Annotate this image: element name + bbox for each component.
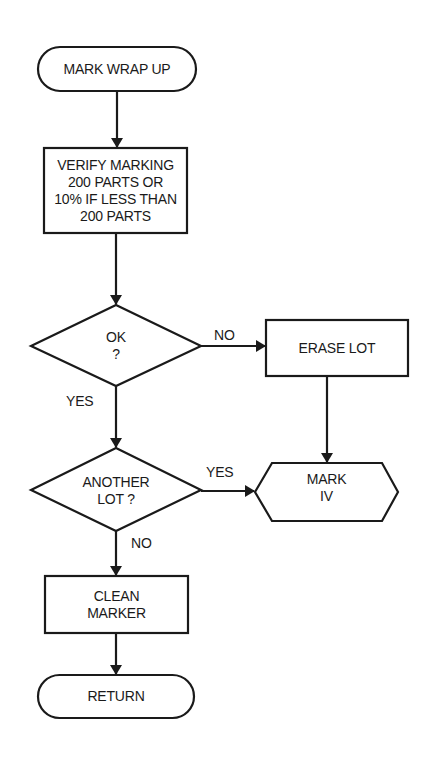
ok-line-1: OK [106, 329, 126, 346]
mark-iv-line-1: MARK [307, 471, 347, 488]
return-label: RETURN [87, 688, 144, 705]
flowchart-canvas [0, 0, 425, 779]
erase-lot-label: ERASE LOT [299, 340, 376, 357]
verify-line-2: 200 PARTS OR [68, 174, 163, 191]
ok-line-2: ? [112, 346, 120, 363]
clean-line-1: CLEAN [94, 588, 140, 605]
clean-line-2: MARKER [87, 605, 146, 622]
return-terminal: RETURN [38, 675, 194, 718]
clean-marker-box: CLEAN MARKER [45, 576, 188, 633]
edge-label-another-yes: YES [206, 464, 233, 481]
edge-label-another-no: NO [131, 535, 152, 552]
mark-iv-line-2: IV [320, 488, 333, 505]
another-line-2: LOT ? [97, 491, 135, 508]
another-lot-decision: ANOTHER LOT ? [56, 465, 176, 517]
mark-iv-hexagon: MARK IV [255, 463, 398, 513]
edge-label-ok-yes: YES [66, 393, 93, 410]
verify-line-3: 10% IF LESS THAN [54, 191, 177, 208]
verify-line-1: VERIFY MARKING [57, 157, 174, 174]
start-label: MARK WRAP UP [63, 61, 170, 78]
edge-label-ok-no: NO [214, 327, 235, 344]
erase-lot-box: ERASE LOT [266, 320, 408, 376]
ok-decision: OK ? [66, 320, 166, 372]
verify-line-4: 200 PARTS [80, 208, 151, 225]
another-line-1: ANOTHER [82, 474, 149, 491]
start-terminal: MARK WRAP UP [38, 47, 196, 91]
verify-marking-box: VERIFY MARKING 200 PARTS OR 10% IF LESS … [44, 148, 187, 233]
